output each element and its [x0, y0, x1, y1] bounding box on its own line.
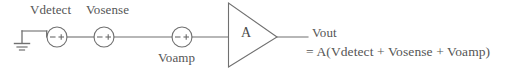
amplifier-triangle-icon	[229, 3, 278, 67]
circuit-diagram-canvas: Vdetect Vosense Voamp A Vout = A(Vdetect…	[0, 0, 524, 71]
label-vout: Vout	[312, 26, 337, 40]
ground-icon	[15, 31, 30, 50]
label-output-equation: = A(Vdetect + Vosense + Voamp)	[306, 45, 490, 59]
label-amplifier-gain: A	[241, 26, 251, 40]
label-vosense: Vosense	[86, 3, 129, 17]
wire-ground-to-vdetect	[22, 31, 47, 37]
label-vdetect: Vdetect	[30, 3, 71, 17]
label-voamp: Voamp	[158, 51, 195, 65]
schematic-svg	[0, 0, 524, 71]
